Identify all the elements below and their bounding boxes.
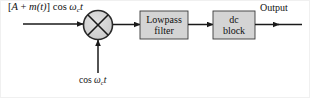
carrier-time: t [104, 75, 107, 85]
dc-block-label-line1: dc [213, 14, 255, 26]
input-plus: + [21, 1, 27, 12]
output-label: Output [260, 3, 288, 13]
input-signal-label: [A + m(t)] cos ωct [8, 2, 83, 14]
input-amplitude: A [12, 1, 18, 12]
lowpass-filter-label-line1: Lowpass [140, 14, 188, 26]
lowpass-filter-label-line2: filter [140, 25, 188, 37]
dc-block-label-line2: block [213, 25, 255, 37]
carrier-cos: cos [79, 75, 92, 85]
block-diagram-figure: [A + m(t)] cos ωct cos ωct Output Lowpas… [0, 0, 310, 98]
input-time: t [80, 1, 83, 12]
input-omega: ω [69, 1, 76, 12]
carrier-omega: ω [94, 75, 101, 85]
lowpass-filter-label: Lowpass filter [140, 14, 188, 37]
dc-block-label: dc block [213, 14, 255, 37]
carrier-signal-label: cos ωct [79, 76, 106, 86]
input-message: m(t) [29, 1, 47, 12]
input-bracket-close: ] [47, 1, 51, 12]
input-cos: cos [53, 1, 67, 12]
